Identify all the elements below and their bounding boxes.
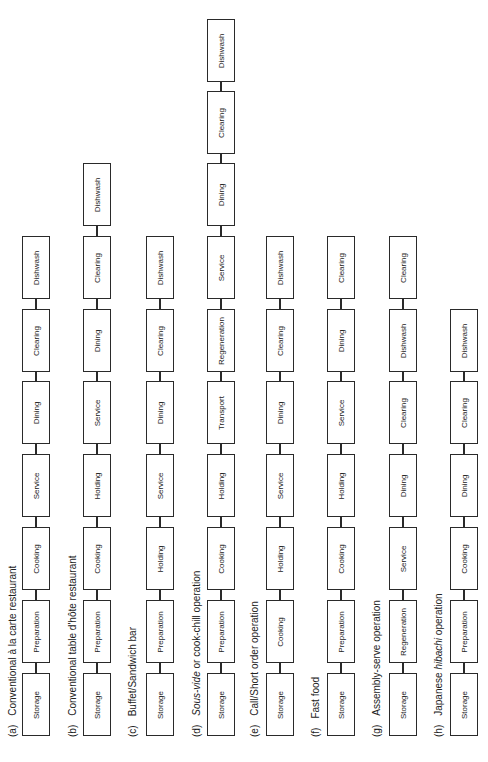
- step-box-holding: Holding: [146, 527, 174, 590]
- step-label: Dining: [93, 329, 102, 352]
- step-label: Cooking: [276, 617, 285, 646]
- flow-connector: [402, 372, 404, 381]
- step-box-transport: Transport: [207, 381, 235, 444]
- flow-connector: [159, 299, 161, 309]
- step-box-dishwash: Dishwash: [389, 309, 417, 372]
- step-box-service: Service: [389, 527, 417, 590]
- step-label: Holding: [156, 545, 165, 572]
- step-box-dining: Dining: [207, 163, 235, 226]
- step-label: Storage: [217, 690, 226, 718]
- flow-connector: [340, 444, 342, 454]
- row-title-text: Conventional table d'hôte restaurant: [67, 555, 78, 715]
- step-box-dining: Dining: [83, 309, 111, 372]
- step-box-storage: Storage: [146, 673, 174, 736]
- row-title: (d)Sous-vide or cook-chill operation: [191, 571, 202, 737]
- flow-connector: [159, 663, 161, 673]
- row-title: (e)Call/Short order operation: [249, 601, 260, 737]
- step-box-cooking: Cooking: [207, 527, 235, 590]
- flow-connector: [220, 444, 222, 454]
- step-label: Storage: [156, 690, 165, 718]
- flow-connector: [220, 517, 222, 527]
- step-box-preparation: Preparation: [146, 600, 174, 663]
- row-title: (f)Fast food: [310, 677, 321, 737]
- step-label: Dishwash: [156, 250, 165, 285]
- step-box-dining: Dining: [389, 454, 417, 517]
- step-box-clearing: Clearing: [389, 381, 417, 444]
- flow-connector: [159, 590, 161, 600]
- step-label: Holding: [337, 472, 346, 499]
- row-title-text: Japanese: [433, 670, 444, 716]
- flow-connector: [279, 372, 281, 381]
- step-label: Storage: [32, 690, 41, 718]
- step-label: Clearing: [93, 253, 102, 283]
- step-label: Preparation: [93, 611, 102, 652]
- flow-connector: [159, 444, 161, 454]
- step-box-regeneration: Regeneration: [389, 600, 417, 663]
- step-box-preparation: Preparation: [207, 600, 235, 663]
- flow-connector: [96, 517, 98, 527]
- step-label: Clearing: [399, 398, 408, 428]
- step-label: Dining: [217, 183, 226, 206]
- step-label: Service: [276, 472, 285, 499]
- row-letter: (e): [249, 725, 260, 737]
- row-letter: (f): [310, 728, 321, 737]
- step-box-clearing: Clearing: [389, 236, 417, 299]
- flow-connector: [463, 372, 465, 381]
- flow-connector: [220, 299, 222, 309]
- step-box-preparation: Preparation: [83, 600, 111, 663]
- row-title-text: Conventional à la carte restaurant: [7, 566, 18, 716]
- step-label: Service: [32, 472, 41, 499]
- step-box-dining: Dining: [146, 381, 174, 444]
- step-label: Dishwash: [217, 33, 226, 68]
- step-box-service: Service: [327, 381, 355, 444]
- step-label: Dining: [337, 329, 346, 352]
- row-title: (a)Conventional à la carte restaurant: [7, 566, 18, 737]
- step-box-storage: Storage: [389, 673, 417, 736]
- step-box-preparation: Preparation: [327, 600, 355, 663]
- step-label: Preparation: [156, 611, 165, 652]
- foodservice-operations-flow-diagram: (a)Conventional à la carte restaurantSto…: [0, 0, 488, 762]
- step-label: Service: [217, 254, 226, 281]
- flow-connector: [35, 590, 37, 600]
- step-box-dining: Dining: [450, 454, 478, 517]
- flow-connector: [402, 299, 404, 309]
- flow-connector: [340, 590, 342, 600]
- row-letter: (d): [191, 725, 202, 737]
- row-letter: (g): [371, 725, 382, 737]
- flow-connector: [402, 517, 404, 527]
- step-box-holding: Holding: [266, 527, 294, 590]
- flow-connector: [463, 517, 465, 527]
- step-label: Cooking: [337, 544, 346, 573]
- step-label: Clearing: [399, 253, 408, 283]
- step-label: Regeneration: [399, 607, 408, 655]
- flow-connector: [96, 299, 98, 309]
- step-box-cooking: Cooking: [83, 527, 111, 590]
- step-box-dining: Dining: [22, 381, 50, 444]
- row-title: (c)Buffet/Sandwich bar: [127, 627, 138, 737]
- flow-connector: [402, 590, 404, 600]
- step-box-cooking: Cooking: [450, 527, 478, 590]
- flow-connector: [159, 517, 161, 527]
- step-box-clearing: Clearing: [327, 236, 355, 299]
- step-box-storage: Storage: [266, 673, 294, 736]
- flow-connector: [96, 663, 98, 673]
- step-box-dishwash: Dishwash: [207, 19, 235, 82]
- step-label: Preparation: [217, 611, 226, 652]
- step-label: Dishwash: [276, 250, 285, 285]
- step-box-storage: Storage: [22, 673, 50, 736]
- step-box-regeneration: Regeneration: [207, 309, 235, 372]
- row-title-text: Sous-vide: [191, 671, 202, 715]
- step-box-cooking: Cooking: [22, 527, 50, 590]
- step-label: Preparation: [460, 611, 469, 652]
- step-box-clearing: Clearing: [83, 236, 111, 299]
- step-label: Clearing: [337, 253, 346, 283]
- flow-connector: [279, 444, 281, 454]
- step-box-dining: Dining: [266, 381, 294, 444]
- step-label: Service: [399, 545, 408, 572]
- flow-connector: [340, 517, 342, 527]
- row-letter: (h): [433, 725, 444, 737]
- step-box-service: Service: [266, 454, 294, 517]
- step-box-storage: Storage: [327, 673, 355, 736]
- step-box-storage: Storage: [83, 673, 111, 736]
- flow-connector: [340, 663, 342, 673]
